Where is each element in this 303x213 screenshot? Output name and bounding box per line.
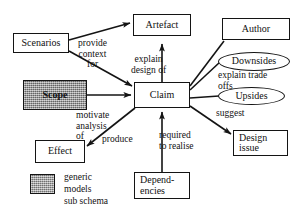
edge-label-suggest: suggest bbox=[216, 108, 245, 119]
legend-text: generic models sub schema bbox=[64, 172, 108, 207]
node-downsides-label: Downsides bbox=[232, 56, 276, 67]
node-design-issue[interactable]: Design issue bbox=[233, 130, 288, 156]
node-scope[interactable]: Scope bbox=[23, 80, 87, 110]
node-claim-label: Claim bbox=[150, 90, 174, 101]
node-author[interactable]: Author bbox=[222, 18, 290, 40]
node-author-label: Author bbox=[242, 24, 270, 35]
node-effect[interactable]: Effect bbox=[35, 140, 85, 163]
node-upsides-label: Upsides bbox=[235, 91, 267, 102]
node-scenarios[interactable]: Scenarios bbox=[13, 33, 69, 53]
node-claim[interactable]: Claim bbox=[134, 82, 190, 108]
edge-claim-upsides bbox=[190, 96, 219, 98]
node-dependencies[interactable]: Depend- encies bbox=[134, 172, 190, 199]
concept-diagram: Scenarios Scope Artefact Claim Author Do… bbox=[0, 0, 303, 213]
shaded-fill-swatch bbox=[30, 174, 55, 194]
edge-label-provide-context-for: provide context for bbox=[78, 38, 107, 70]
node-downsides[interactable]: Downsides bbox=[218, 52, 290, 71]
node-scope-label: Scope bbox=[43, 90, 68, 101]
edge-label-produce: produce bbox=[102, 134, 133, 145]
node-artefact-label: Artefact bbox=[146, 20, 179, 31]
edge-label-explain-trade-offs: explain trade offs bbox=[218, 70, 267, 91]
edge-label-required-to-realise: required to realise bbox=[159, 130, 194, 151]
node-dependencies-label: Depend- encies bbox=[140, 175, 174, 196]
node-scenarios-label: Scenarios bbox=[22, 38, 61, 49]
node-artefact[interactable]: Artefact bbox=[133, 14, 191, 36]
edge-label-explain-design-of: explain design of bbox=[131, 54, 166, 75]
node-design-issue-label: Design issue bbox=[239, 133, 267, 154]
node-effect-label: Effect bbox=[48, 146, 72, 157]
